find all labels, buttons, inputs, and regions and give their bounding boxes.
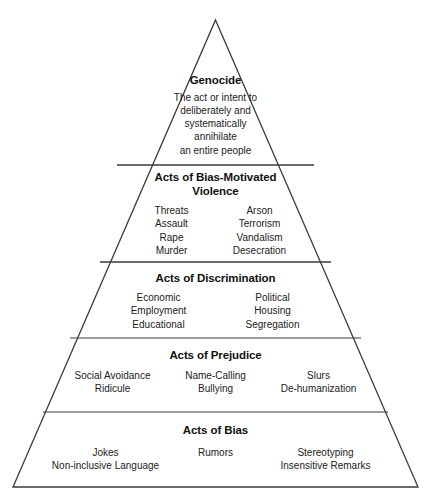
- tier-acts-of-prejudice: Acts of Prejudice Social Avoidance Ridic…: [0, 349, 431, 396]
- tier-violence-item: Terrorism: [239, 217, 281, 231]
- tier-prejudice-item: Name-Calling: [185, 369, 246, 383]
- tier-genocide-line-2: deliberately and: [0, 104, 431, 117]
- tier-discrimination-column-1: Economic Employment Educational: [102, 291, 216, 332]
- tier-prejudice-item: Slurs: [307, 369, 330, 383]
- tier-violence-item: Vandalism: [237, 231, 283, 245]
- tier-bias-item: Stereotyping: [297, 446, 353, 460]
- pyramid-of-hate-diagram: Genocide The act or intent to deliberate…: [0, 0, 431, 495]
- tier-violence-column-2: Arson Terrorism Vandalism Desecration: [216, 204, 304, 258]
- tier-bias-title: Acts of Bias: [0, 424, 431, 438]
- tier-discrimination-title: Acts of Discrimination: [0, 272, 431, 286]
- tier-genocide-line-1: The act or intent to: [0, 91, 431, 104]
- tier-prejudice-item: Ridicule: [95, 382, 131, 396]
- tier-prejudice-column-3: Slurs De-humanization: [267, 369, 370, 396]
- tier-discrimination-item: Housing: [254, 304, 291, 318]
- tier-bias-column-1: Jokes Non-inclusive Language: [51, 446, 161, 473]
- tier-genocide-line-4: annihilate: [0, 130, 431, 143]
- tier-violence-item: Murder: [156, 244, 188, 258]
- tier-prejudice-column-2: Name-Calling Bullying: [164, 369, 267, 396]
- tier-violence-column-1: Threats Assault Rape Murder: [128, 204, 216, 258]
- tier-acts-of-discrimination: Acts of Discrimination Economic Employme…: [0, 272, 431, 331]
- tier-prejudice-column-1: Social Avoidance Ridicule: [61, 369, 164, 396]
- tier-violence-item: Desecration: [233, 244, 286, 258]
- tier-bias-column-2: Rumors: [161, 446, 271, 473]
- tier-bias-body: Jokes Non-inclusive Language Rumors Ster…: [51, 446, 381, 473]
- tier-bias-column-3: Stereotyping Insensitive Remarks: [271, 446, 381, 473]
- tier-discrimination-item: Economic: [137, 291, 181, 305]
- tier-acts-of-bias: Acts of Bias Jokes Non-inclusive Languag…: [0, 424, 431, 473]
- tier-bias-item: Jokes: [92, 446, 118, 460]
- tier-bias-item: Non-inclusive Language: [52, 459, 159, 473]
- tier-discrimination-item: Educational: [132, 318, 184, 332]
- tier-violence-title-line-2: Violence: [0, 185, 431, 199]
- tier-genocide-body: The act or intent to deliberately and sy…: [0, 91, 431, 157]
- tier-violence-title-line-1: Acts of Bias-Motivated: [0, 171, 431, 185]
- tier-violence-item: Assault: [155, 217, 188, 231]
- tier-violence-item: Threats: [155, 204, 189, 218]
- tier-violence-item: Rape: [160, 231, 184, 245]
- tier-bias-item: Insensitive Remarks: [280, 459, 370, 473]
- tier-discrimination-item: Employment: [131, 304, 187, 318]
- tier-violence-item: Arson: [246, 204, 272, 218]
- tier-genocide-title: Genocide: [0, 74, 431, 88]
- tier-bias-item: Rumors: [198, 446, 233, 460]
- tier-prejudice-item: Bullying: [198, 382, 233, 396]
- tier-genocide-line-5: an entire people: [0, 144, 431, 157]
- tier-prejudice-body: Social Avoidance Ridicule Name-Calling B…: [61, 369, 371, 396]
- tier-prejudice-item: De-humanization: [281, 382, 357, 396]
- tier-genocide: Genocide The act or intent to deliberate…: [0, 74, 431, 157]
- diagram-caption: [8, 489, 428, 495]
- tier-discrimination-body: Economic Employment Educational Politica…: [102, 291, 330, 332]
- tier-prejudice-title: Acts of Prejudice: [0, 349, 431, 363]
- tier-discrimination-item: Segregation: [246, 318, 300, 332]
- tier-violence-body: Threats Assault Rape Murder Arson Terror…: [128, 204, 304, 258]
- tier-prejudice-item: Social Avoidance: [75, 369, 151, 383]
- tier-genocide-line-3: systematically: [0, 117, 431, 130]
- tier-bias-motivated-violence: Acts of Bias-Motivated Violence Threats …: [0, 171, 431, 258]
- tier-discrimination-item: Political: [255, 291, 289, 305]
- tier-discrimination-column-2: Political Housing Segregation: [216, 291, 330, 332]
